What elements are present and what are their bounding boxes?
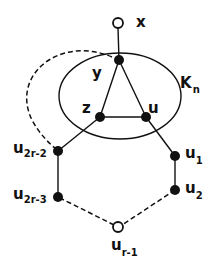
node-x [113,18,123,28]
edge-z-u2r2 [58,117,100,151]
label-y: y [92,64,102,82]
label-x: x [136,13,146,31]
node-u2 [170,185,180,195]
node-ur1 [113,222,123,232]
label-u2r2: u2r-2 [13,139,47,159]
edge-y-z [100,60,119,117]
node-u2r3 [53,192,63,202]
graph-diagram: x y z u Kn u2r-2 u2r-3 u1 u2 ur-1 [0,0,211,270]
label-u: u [148,99,159,117]
node-u1 [170,151,180,161]
label-u2: u2 [185,179,203,201]
clique-kn-ellipse [59,53,181,139]
edge-u2-ur1 [122,190,175,225]
edge-ur1-u2r3 [58,197,114,225]
node-z [95,112,105,122]
label-z: z [82,99,91,117]
label-u2r3: u2r-3 [13,185,47,205]
label-u1: u1 [185,144,203,166]
edge-u-u1 [146,117,175,156]
edge-y-u [119,60,146,117]
label-ur1: ur-1 [111,236,138,258]
node-u2r2 [53,146,63,156]
label-kn: Kn [180,74,200,95]
node-y [114,55,124,65]
